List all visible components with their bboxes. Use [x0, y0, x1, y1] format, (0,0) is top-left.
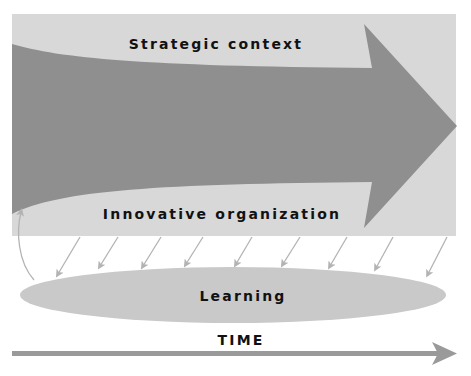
feedback-arrow: [428, 237, 447, 274]
feedback-arrow: [283, 237, 300, 264]
innovation-learning-diagram: Strategic context Innovative organizatio…: [0, 0, 471, 376]
strategic-context-label: Strategic context: [129, 36, 304, 52]
feedback-arrow: [330, 237, 347, 266]
innovative-organization-label: Innovative organization: [103, 206, 341, 222]
learning-label: Learning: [199, 288, 286, 304]
feedback-arrow: [143, 237, 161, 266]
feedback-arrow: [236, 237, 252, 264]
feedback-arrow: [58, 237, 80, 274]
feedback-arrow: [100, 237, 118, 266]
feedback-arrow: [186, 237, 203, 264]
feedback-arrow: [376, 237, 393, 268]
time-label: TIME: [217, 332, 264, 348]
